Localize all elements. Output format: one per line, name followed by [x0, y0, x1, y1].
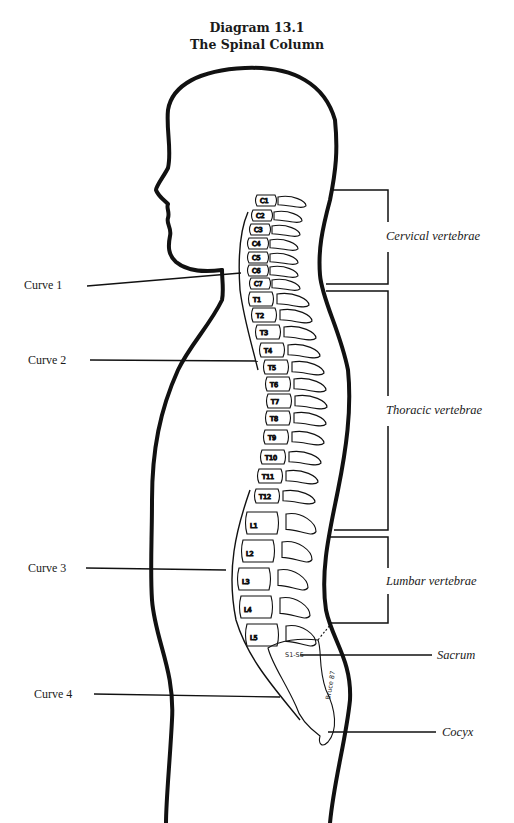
- vertebra-label: T3: [259, 329, 268, 337]
- vertebra-t9: T9: [264, 430, 325, 445]
- vertebra-label: T7: [270, 398, 279, 406]
- vertebra-label: L3: [242, 578, 250, 586]
- vertebra-label: C6: [252, 267, 261, 275]
- vertebra-label: L1: [250, 522, 258, 530]
- cervical-bracket: [326, 190, 388, 284]
- vertebra-l1: L1: [246, 512, 317, 534]
- label-cervical-vertebrae: Cervical vertebrae: [386, 229, 480, 244]
- vertebra-label: T2: [255, 312, 264, 320]
- label-curve-1: Curve 1: [24, 278, 62, 293]
- vertebra-c5: C5: [248, 252, 299, 264]
- vertebra-label: L4: [244, 606, 252, 614]
- vertebra-t7: T7: [267, 394, 328, 409]
- label-curve-4: Curve 4: [34, 687, 72, 702]
- vertebra-label: C4: [252, 240, 261, 248]
- lumbar-bracket: [328, 537, 388, 623]
- label-sacrum: Sacrum: [437, 648, 475, 663]
- vertebra-label: L5: [250, 634, 258, 642]
- vertebra-c7: C7: [250, 278, 301, 290]
- label-lumbar-vertebrae: Lumbar vertebrae: [386, 574, 477, 589]
- vertebra-t8: T8: [266, 411, 327, 426]
- vertebra-t5: T5: [264, 360, 325, 375]
- vertebra-l2: L2: [242, 540, 313, 562]
- vertebra-label: C7: [254, 280, 263, 288]
- vertebra-t1: T1: [249, 292, 310, 307]
- vertebra-label: C2: [256, 212, 265, 220]
- vertebra-t3: T3: [256, 325, 317, 340]
- sacral-label: S1-S5: [285, 651, 304, 659]
- vertebra-label: T11: [261, 473, 274, 481]
- vertebra-label: C5: [252, 254, 261, 262]
- vertebra-t6: T6: [266, 377, 327, 392]
- vertebra-l3: L3: [238, 568, 309, 590]
- vertebra-t4: T4: [260, 343, 321, 358]
- vertebra-label: T10: [264, 454, 277, 462]
- vertebra-l4: L4: [240, 596, 311, 618]
- vertebra-t10: T10: [261, 450, 322, 465]
- label-curve-2: Curve 2: [28, 353, 66, 368]
- vertebra-label: T4: [263, 347, 272, 355]
- label-curve-3: Curve 3: [28, 561, 66, 576]
- vertebra-t11: T11: [258, 469, 319, 484]
- vertebra-label: T1: [252, 296, 261, 304]
- vertebra-c2: C2: [252, 210, 303, 222]
- vertebra-label: T6: [269, 381, 278, 389]
- vertebra-label: L2: [246, 550, 254, 558]
- label-thoracic-vertebrae: Thoracic vertebrae: [386, 403, 482, 418]
- vertebra-t12: T12: [255, 489, 316, 504]
- vertebra-c1: C1: [256, 195, 307, 207]
- vertebra-c6: C6: [248, 265, 299, 277]
- vertebra-t2: T2: [252, 308, 313, 323]
- vertebra-label: C3: [254, 226, 263, 234]
- vertebra-label: T9: [267, 434, 276, 442]
- label-cocyx: Cocyx: [442, 725, 473, 740]
- vertebra-label: T5: [267, 364, 276, 372]
- vertebra-c4: C4: [248, 238, 299, 250]
- vertebra-c3: C3: [250, 224, 301, 236]
- vertebra-label: T8: [269, 415, 278, 423]
- vertebra-label: C1: [260, 197, 269, 205]
- vertebrae: C1C2C3C4C5C6C7T1T2T3T4T5T6T7T8T9T10T11T1…: [238, 195, 328, 646]
- artist-signature: Bruce 87: [324, 670, 337, 700]
- vertebra-label: T12: [258, 493, 271, 501]
